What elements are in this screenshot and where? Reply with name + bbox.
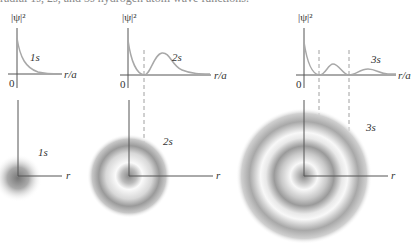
r-axis-label: r	[216, 170, 220, 181]
orbital-label: 2s	[172, 52, 182, 63]
origin-label: 0	[120, 79, 126, 90]
orbital-figure	[0, 0, 416, 249]
y-axis-label: |ψ|²	[122, 12, 137, 23]
cloud-1s	[0, 100, 62, 202]
curve-2s	[128, 40, 210, 75]
cloud-label: 3s	[366, 122, 376, 133]
x-axis-label: r/a	[398, 70, 411, 81]
r-axis-label: r	[66, 170, 70, 181]
origin-label: 0	[9, 78, 15, 89]
probability-cloud-1s	[0, 154, 42, 202]
x-axis-label: r/a	[64, 69, 77, 80]
origin-label: 0	[296, 79, 302, 90]
x-axis-label: r/a	[214, 70, 227, 81]
cloud-label: 2s	[163, 136, 173, 147]
orbital-label: 1s	[30, 52, 40, 63]
cloud-2s	[87, 100, 213, 218]
r-axis-label: r	[391, 170, 395, 181]
y-axis-label: |ψ|²	[11, 12, 26, 23]
curve-3s	[304, 42, 396, 75]
orbital-label: 3s	[371, 54, 381, 65]
y-axis-label: |ψ|²	[298, 12, 313, 23]
cloud-label: 1s	[38, 147, 48, 158]
